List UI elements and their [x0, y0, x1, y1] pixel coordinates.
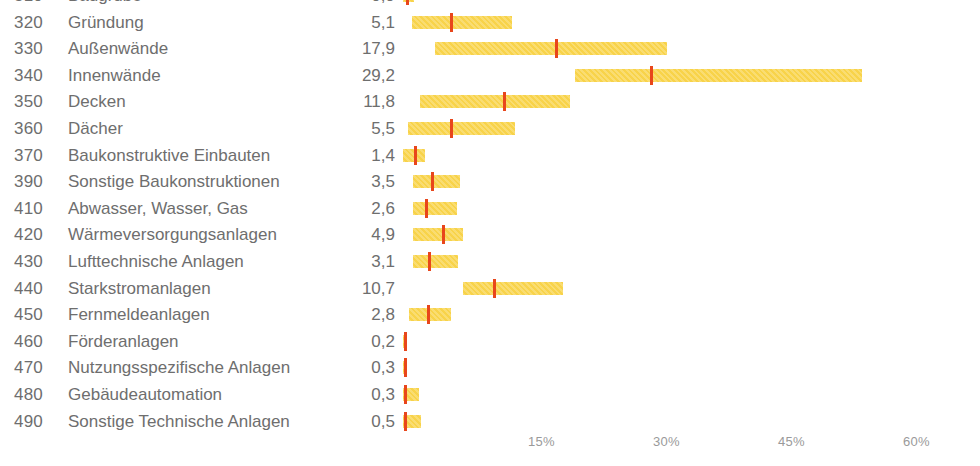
median-marker	[414, 146, 417, 165]
row-code: 490	[14, 409, 60, 435]
row-label: Nutzungsspezifische Anlagen	[68, 355, 290, 381]
range-bar	[420, 95, 570, 108]
range-bar	[413, 228, 463, 241]
row-value: 0,3	[280, 355, 395, 381]
range-bar	[413, 202, 457, 215]
row-code: 420	[14, 222, 60, 248]
row-value: 4,9	[280, 222, 395, 248]
axis-tick-label: 60%	[903, 434, 930, 449]
median-marker	[503, 92, 506, 111]
row-value: 0,5	[280, 409, 395, 435]
row-value: 3,1	[280, 249, 395, 275]
row-label: Baukonstruktive Einbauten	[68, 143, 270, 169]
median-marker	[404, 332, 407, 351]
row-code: 470	[14, 355, 60, 381]
median-marker	[493, 279, 496, 298]
row-label: Baugrube	[68, 0, 142, 9]
row-code: 360	[14, 116, 60, 142]
row-code: 310	[14, 0, 60, 9]
row-code: 450	[14, 302, 60, 328]
median-marker	[425, 199, 428, 218]
median-marker	[450, 13, 453, 32]
median-marker	[431, 172, 434, 191]
axis-tick-label: 30%	[653, 434, 680, 449]
range-bar	[435, 42, 668, 55]
row-value: 5,5	[280, 116, 395, 142]
row-code: 410	[14, 196, 60, 222]
row-label: Außenwände	[68, 36, 168, 62]
range-bar	[463, 282, 563, 295]
plot-area	[403, 0, 980, 466]
row-value: 2,8	[280, 302, 395, 328]
row-value: 3,5	[280, 169, 395, 195]
row-label: Sonstige Technische Anlagen	[68, 409, 290, 435]
range-bar	[412, 16, 512, 29]
median-marker	[428, 252, 431, 271]
row-label: Gründung	[68, 10, 144, 36]
row-label: Abwasser, Wasser, Gas	[68, 196, 248, 222]
row-code: 430	[14, 249, 60, 275]
row-value: 1,4	[280, 143, 395, 169]
row-code: 350	[14, 89, 60, 115]
row-code: 330	[14, 36, 60, 62]
row-label: Innenwände	[68, 63, 161, 89]
median-marker	[404, 385, 407, 404]
row-label: Starkstromanlagen	[68, 276, 211, 302]
range-bar	[575, 69, 863, 82]
row-code: 320	[14, 10, 60, 36]
row-code: 390	[14, 169, 60, 195]
row-value: 0,2	[280, 329, 395, 355]
row-value: 0,9	[280, 0, 395, 9]
median-marker	[442, 225, 445, 244]
median-marker	[404, 358, 407, 377]
median-marker	[404, 412, 407, 431]
row-label: Fernmeldeanlagen	[68, 302, 210, 328]
row-value: 29,2	[280, 63, 395, 89]
row-code: 440	[14, 276, 60, 302]
median-marker	[450, 119, 453, 138]
row-label: Lufttechnische Anlagen	[68, 249, 244, 275]
median-marker	[427, 305, 430, 324]
median-marker	[555, 39, 558, 58]
row-label: Dächer	[68, 116, 123, 142]
row-code: 370	[14, 143, 60, 169]
row-value: 11,8	[280, 89, 395, 115]
axis-tick-label: 15%	[528, 434, 555, 449]
row-value: 0,3	[280, 382, 395, 408]
row-code: 480	[14, 382, 60, 408]
range-bar	[413, 255, 458, 268]
row-label: Gebäudeautomation	[68, 382, 222, 408]
range-bar	[413, 175, 460, 188]
row-value: 10,7	[280, 276, 395, 302]
range-bar	[408, 122, 515, 135]
row-label: Förderanlagen	[68, 329, 179, 355]
row-value: 17,9	[280, 36, 395, 62]
row-value: 2,6	[280, 196, 395, 222]
row-label: Wärmeversorgungsanlagen	[68, 222, 277, 248]
median-marker	[406, 0, 409, 5]
row-code: 460	[14, 329, 60, 355]
row-label: Decken	[68, 89, 126, 115]
median-marker	[650, 66, 653, 85]
row-value: 5,1	[280, 10, 395, 36]
row-label: Sonstige Baukonstruktionen	[68, 169, 280, 195]
row-code: 340	[14, 63, 60, 89]
x-axis: 15%30%45%60%	[0, 434, 980, 456]
cost-group-range-chart: 310Baugrube0,9320Gründung5,1330Außenwänd…	[0, 0, 980, 466]
axis-tick-label: 45%	[778, 434, 805, 449]
